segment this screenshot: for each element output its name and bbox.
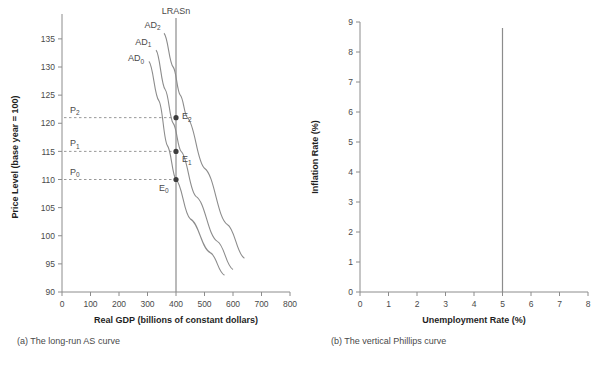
y-tick-label: 125	[41, 90, 55, 100]
price-label-2: P0	[70, 167, 80, 179]
lras-label: LRASn	[162, 6, 191, 16]
x-tick-label: 200	[112, 299, 126, 309]
y-tick-label: 4	[348, 167, 353, 177]
chart-vertical-phillips: 0123456789012345678Unemployment Rate (%)…	[298, 0, 598, 330]
x-tick-label: 0	[358, 299, 363, 309]
y-tick-label: 5	[348, 137, 353, 147]
x-axis-title: Real GDP (billions of constant dollars)	[94, 315, 258, 325]
y-tick-label: 100	[41, 231, 55, 241]
y-tick-label: 130	[41, 62, 55, 72]
y-axis-title: Price Level (base year = 100)	[10, 96, 20, 219]
equilibrium-dot-1	[173, 149, 178, 154]
equilibrium-label-0: E2	[182, 111, 192, 123]
panel-long-run-as: 9095100105110115120125130135010020030040…	[0, 0, 300, 365]
ad-label-1: AD1	[135, 37, 152, 49]
y-tick-label: 90	[46, 287, 56, 297]
price-label-1: P1	[70, 138, 80, 150]
equilibrium-label-1: E1	[182, 154, 192, 166]
equilibrium-label-2: E0	[159, 183, 169, 195]
x-tick-label: 8	[586, 299, 591, 309]
x-tick-label: 7	[557, 299, 562, 309]
y-tick-label: 8	[348, 47, 353, 57]
x-tick-label: 600	[226, 299, 240, 309]
chart-long-run-as: 9095100105110115120125130135010020030040…	[0, 0, 300, 330]
x-tick-label: 100	[83, 299, 97, 309]
x-tick-label: 2	[415, 299, 420, 309]
x-tick-label: 400	[169, 299, 183, 309]
equilibrium-dot-2	[173, 177, 178, 182]
economics-figure: 9095100105110115120125130135010020030040…	[0, 0, 598, 365]
y-tick-label: 120	[41, 118, 55, 128]
x-tick-label: 800	[283, 299, 297, 309]
y-tick-label: 1	[348, 257, 353, 267]
equilibrium-dot-0	[173, 115, 178, 120]
x-tick-label: 0	[60, 299, 65, 309]
y-axis-title: Inflation Rate (%)	[310, 120, 320, 194]
y-tick-label: 7	[348, 77, 353, 87]
x-tick-label: 300	[140, 299, 154, 309]
y-tick-label: 9	[348, 17, 353, 27]
caption-panel-b: (b) The vertical Phillips curve	[331, 336, 446, 346]
x-tick-label: 5	[500, 299, 505, 309]
ad-label-0: AD0	[128, 53, 145, 65]
y-tick-label: 95	[46, 259, 56, 269]
y-tick-label: 2	[348, 227, 353, 237]
price-label-0: P2	[70, 105, 80, 117]
caption-panel-a: (a) The long-run AS curve	[17, 336, 120, 346]
y-tick-label: 3	[348, 197, 353, 207]
x-axis-title: Unemployment Rate (%)	[422, 315, 526, 325]
x-tick-label: 3	[443, 299, 448, 309]
y-tick-label: 110	[41, 175, 55, 185]
x-tick-label: 1	[386, 299, 391, 309]
ad-label-2: AD2	[145, 20, 162, 32]
y-tick-label: 6	[348, 107, 353, 117]
x-tick-label: 700	[254, 299, 268, 309]
x-tick-label: 500	[197, 299, 211, 309]
x-tick-label: 4	[472, 299, 477, 309]
y-tick-label: 105	[41, 203, 55, 213]
ad-curve-0	[149, 61, 225, 275]
y-tick-label: 115	[41, 147, 55, 157]
ad-curve-1	[156, 50, 233, 269]
y-tick-label: 0	[348, 287, 353, 297]
x-tick-label: 6	[529, 299, 534, 309]
panel-vertical-phillips: 0123456789012345678Unemployment Rate (%)…	[298, 0, 598, 365]
y-tick-label: 135	[41, 34, 55, 44]
